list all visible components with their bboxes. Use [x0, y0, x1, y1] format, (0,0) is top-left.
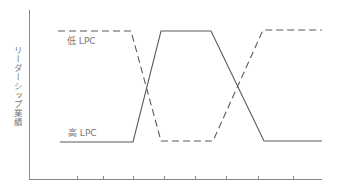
lpc-performance-chart: 低 LPC 高 LPC — [0, 0, 338, 191]
series-high-lpc — [60, 31, 322, 142]
label-high-lpc: 高 LPC — [68, 127, 97, 138]
label-low-lpc: 低 LPC — [67, 35, 96, 46]
y-axis-label: リーダーシップ業績 — [9, 46, 21, 127]
series-low-lpc — [58, 30, 322, 141]
